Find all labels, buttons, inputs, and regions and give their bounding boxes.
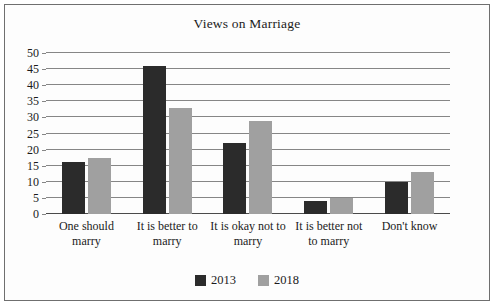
bar-2013[interactable] [143, 66, 166, 214]
bar-group [369, 53, 450, 214]
bar-2018[interactable] [330, 198, 353, 214]
category-label: It is better to marry [127, 219, 208, 249]
y-axis-tick-label: 45 [27, 62, 39, 77]
y-axis-tick-label: 5 [33, 190, 39, 205]
y-axis-tick-mark [42, 214, 46, 215]
chart-legend: 20132018 [5, 273, 489, 288]
plot-area: 05101520253035404550 [46, 53, 450, 214]
category-label: It is okay not to marry [208, 219, 289, 249]
y-axis-tick-label: 0 [33, 207, 39, 222]
bar-groups [46, 53, 450, 214]
bar-group [288, 53, 369, 214]
bar-2018[interactable] [88, 158, 111, 214]
legend-label: 2018 [274, 273, 299, 288]
bar-2013[interactable] [385, 182, 408, 214]
category-label: It is better not to marry [288, 219, 369, 249]
bar-group [46, 53, 127, 214]
bar-2018[interactable] [169, 108, 192, 214]
bar-2018[interactable] [249, 121, 272, 214]
legend-item-2018[interactable]: 2018 [258, 273, 299, 288]
legend-item-2013[interactable]: 2013 [195, 273, 236, 288]
bar-group [127, 53, 208, 214]
legend-swatch-icon [258, 275, 269, 286]
legend-swatch-icon [195, 275, 206, 286]
y-axis-tick-label: 40 [27, 78, 39, 93]
chart-figure: Views on Marriage 05101520253035404550 O… [4, 4, 490, 301]
legend-label: 2013 [211, 273, 236, 288]
y-axis-tick-label: 15 [27, 158, 39, 173]
y-axis-tick-label: 10 [27, 174, 39, 189]
bar-2018[interactable] [411, 172, 434, 214]
bar-2013[interactable] [223, 143, 246, 214]
bar-2013[interactable] [62, 162, 85, 214]
category-label: One should marry [46, 219, 127, 249]
y-axis-tick-label: 35 [27, 94, 39, 109]
y-axis-tick-label: 50 [27, 46, 39, 61]
y-axis-tick-label: 20 [27, 142, 39, 157]
chart-title: Views on Marriage [5, 16, 489, 32]
category-axis: One should marryIt is better to marryIt … [46, 219, 450, 249]
bar-group [208, 53, 289, 214]
y-axis-tick-label: 25 [27, 126, 39, 141]
category-label: Don't know [369, 219, 450, 249]
y-axis-tick-label: 30 [27, 110, 39, 125]
bar-2013[interactable] [304, 201, 327, 214]
